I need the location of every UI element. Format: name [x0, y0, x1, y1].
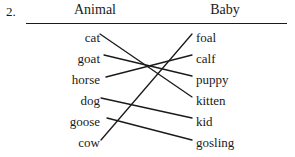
- left-word-horse[interactable]: horse: [72, 73, 100, 86]
- right-word-gosling[interactable]: gosling: [196, 136, 234, 149]
- left-word-goat[interactable]: goat: [78, 52, 100, 65]
- match-line-cat-to-kitten[interactable]: [100, 34, 192, 97]
- right-word-kitten[interactable]: kitten: [196, 94, 226, 107]
- right-word-kid[interactable]: kid: [196, 115, 213, 128]
- question-number: 2.: [6, 5, 16, 18]
- header-divider-rule: [26, 23, 287, 24]
- column-header-animal: Animal: [40, 3, 150, 17]
- left-word-cow[interactable]: cow: [78, 136, 100, 149]
- right-word-foal[interactable]: foal: [196, 31, 216, 44]
- right-word-puppy[interactable]: puppy: [196, 73, 229, 86]
- left-word-dog[interactable]: dog: [81, 94, 101, 107]
- left-word-goose[interactable]: goose: [70, 115, 100, 128]
- right-word-calf[interactable]: calf: [196, 52, 215, 65]
- match-line-horse-to-calf[interactable]: [106, 55, 192, 77]
- matching-exercise: 2. Animal Baby catgoathorsedoggoosecow f…: [0, 0, 295, 157]
- match-line-cow-to-foal[interactable]: [101, 34, 192, 140]
- left-word-cat[interactable]: cat: [85, 31, 100, 44]
- match-line-dog-to-kid[interactable]: [101, 98, 192, 118]
- column-header-baby: Baby: [170, 3, 280, 17]
- match-line-goose-to-gosling[interactable]: [107, 118, 192, 140]
- match-line-goat-to-puppy[interactable]: [104, 55, 192, 76]
